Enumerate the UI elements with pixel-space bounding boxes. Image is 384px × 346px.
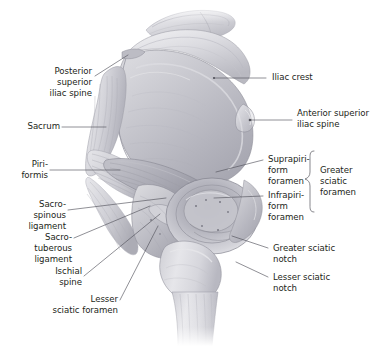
label-iliac-crest: Iliac crest [272, 72, 368, 83]
label-lesser-sciatic-foramen: Lesser sciatic foramen [30, 294, 118, 316]
label-suprapiriform-foramen: Suprapiri- form foramen [268, 154, 312, 188]
femur [160, 241, 224, 346]
label-greater-sciatic-foramen: Greater sciatic foramen [320, 165, 372, 199]
label-anterior-superior-iliac-spine: Anterior superior iliac spine [297, 108, 383, 130]
label-piriformis: Piri- formis [16, 159, 48, 181]
label-greater-sciatic-notch: Greater sciatic notch [273, 243, 373, 265]
label-posterior-superior-iliac-spine: Posterior superior iliac spine [16, 66, 92, 100]
label-infrapiriform-foramen: Infrapiri- form foramen [268, 190, 312, 224]
leader-lesser-sciatic-notch [236, 262, 268, 277]
label-sacrospinous-ligament: Sacro- spinous ligament [6, 199, 66, 233]
label-ischial-spine: Ischial spine [30, 266, 82, 288]
label-sacrum: Sacrum [16, 121, 60, 132]
label-lesser-sciatic-notch: Lesser sciatic notch [273, 272, 373, 294]
anatomy-figure-page: Posterior superior iliac spine Sacrum Pi… [0, 0, 384, 346]
label-sacrotuberous-ligament: Sacro- tuberous ligament [6, 232, 72, 266]
